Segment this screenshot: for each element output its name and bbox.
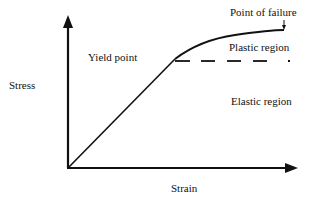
x-axis-arrowhead: [285, 163, 298, 173]
yield-point-label: Yield point: [88, 52, 137, 63]
plastic-region-label: Plastic region: [229, 42, 289, 53]
elastic-region-label: Elastic region: [231, 96, 292, 107]
elastic-line: [68, 59, 175, 168]
y-axis-label: Stress: [9, 80, 35, 91]
point-of-failure-label: Point of failure: [230, 7, 297, 18]
x-axis-label: Strain: [171, 183, 197, 194]
y-axis-arrowhead: [63, 15, 73, 28]
